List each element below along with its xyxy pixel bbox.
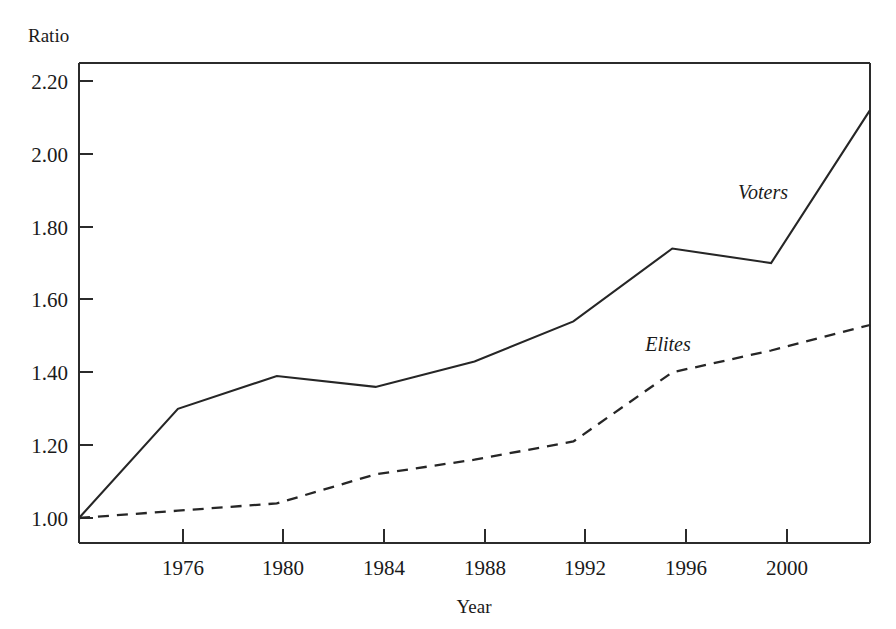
y-tick-label: 1.60 xyxy=(31,288,68,312)
y-tick-label: 1.80 xyxy=(31,216,68,240)
x-tick-label: 1976 xyxy=(162,556,204,580)
x-axis-title: Year xyxy=(456,596,492,617)
ratio-by-year-line-chart: Ratio 1.00 1.20 1.40 1.60 1.80 2.00 2.20 xyxy=(0,0,896,629)
y-tick-label: 2.00 xyxy=(31,143,68,167)
x-tick-label: 1992 xyxy=(564,556,606,580)
y-tick-label: 1.20 xyxy=(31,434,68,458)
y-tick-label: 2.20 xyxy=(31,70,68,94)
x-tick-label: 1988 xyxy=(464,556,506,580)
y-tick-label: 1.40 xyxy=(31,361,68,385)
series-label-elites: Elites xyxy=(644,333,691,355)
x-tick-label: 1996 xyxy=(665,556,707,580)
x-tick-label: 1980 xyxy=(262,556,304,580)
y-tick-label: 1.00 xyxy=(31,507,68,531)
y-axis-title: Ratio xyxy=(28,25,69,46)
chart-background xyxy=(0,0,896,629)
x-tick-label: 2000 xyxy=(766,556,808,580)
series-label-voters: Voters xyxy=(738,181,788,203)
x-tick-label: 1984 xyxy=(363,556,406,580)
